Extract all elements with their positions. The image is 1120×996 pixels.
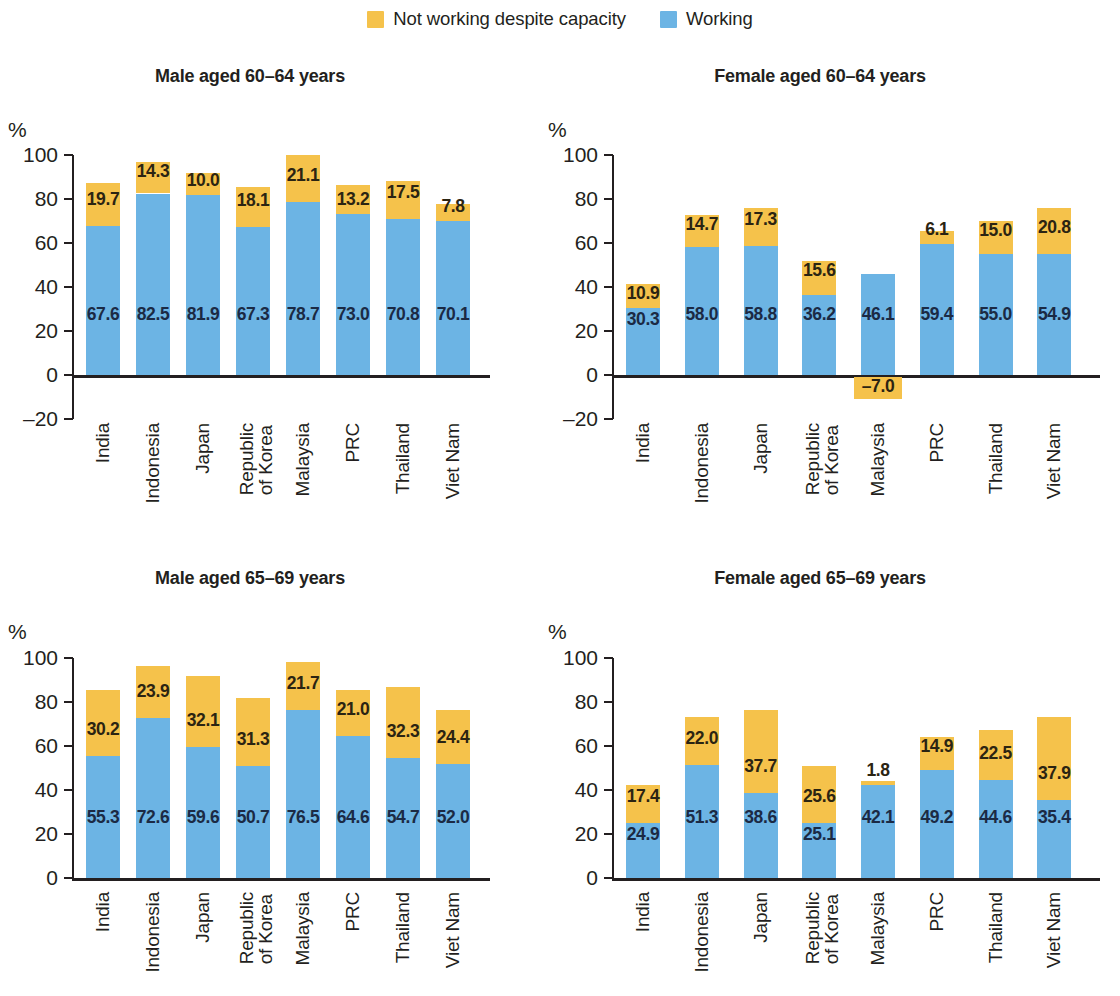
y-axis-tick-label: 80 (534, 691, 598, 712)
bar-value-label-not-working: 25.6 (803, 788, 835, 806)
bar-value-label-not-working: 22.0 (686, 730, 718, 748)
bar-segment-not-working[interactable]: 37.7 (744, 710, 778, 793)
bar-segment-not-working[interactable]: 37.9 (1037, 717, 1071, 800)
bar-segment-working[interactable]: 52.0 (436, 764, 470, 878)
bar-segment-working[interactable]: 38.6 (744, 793, 778, 878)
bar-group[interactable]: 59.632.1 (186, 0, 220, 996)
y-axis-tick (64, 701, 73, 703)
bar-value-label-not-working: 37.7 (744, 758, 776, 776)
bar-group[interactable]: 44.622.5 (979, 0, 1013, 996)
y-axis-tick-label: 60 (0, 735, 58, 756)
bar-segment-not-working[interactable]: 24.4 (436, 710, 470, 764)
y-axis-tick-label: 80 (0, 691, 58, 712)
y-axis-tick (64, 745, 73, 747)
bar-segment-not-working[interactable]: 22.0 (685, 717, 719, 765)
y-axis-tick (604, 877, 613, 879)
bar-segment-working[interactable]: 51.3 (685, 765, 719, 878)
bar-segment-working[interactable]: 64.6 (336, 736, 370, 878)
bar-segment-working[interactable]: 55.3 (86, 756, 120, 878)
bar-group[interactable]: 64.621.0 (336, 0, 370, 996)
bar-value-label-not-working: 21.0 (337, 701, 369, 719)
y-axis-tick-label: 20 (534, 823, 598, 844)
y-axis-tick (604, 701, 613, 703)
x-axis-category-label: India (93, 892, 112, 932)
y-axis-tick-label: 60 (534, 735, 598, 756)
bar-value-label-working: 25.1 (803, 826, 835, 844)
bar-group[interactable]: 42.11.8 (861, 0, 895, 996)
y-axis-tick (64, 657, 73, 659)
bar-value-label-working: 51.3 (686, 809, 718, 827)
y-axis-tick-label: 100 (0, 647, 58, 668)
bar-segment-not-working[interactable]: 32.3 (386, 687, 420, 758)
bar-value-label-working: 44.6 (979, 809, 1011, 827)
x-axis-category-label: PRC (927, 892, 946, 932)
bar-value-label-not-working: 23.9 (137, 683, 169, 701)
x-axis-line (72, 878, 490, 881)
bar-segment-not-working[interactable]: 1.8 (861, 781, 895, 785)
bar-segment-working[interactable]: 35.4 (1037, 800, 1071, 878)
bar-segment-working[interactable]: 59.6 (186, 747, 220, 878)
y-axis-line (612, 658, 614, 878)
bar-segment-not-working[interactable]: 14.9 (920, 737, 954, 770)
bar-group[interactable]: 35.437.9 (1037, 0, 1071, 996)
bar-segment-working[interactable]: 54.7 (386, 758, 420, 878)
x-axis-category-label: Republic of Korea (803, 892, 842, 964)
bar-value-label-not-working: 14.9 (921, 738, 953, 756)
bar-value-label-not-working: 30.2 (87, 721, 119, 739)
y-axis-unit-label: % (548, 620, 567, 644)
bar-value-label-working: 72.6 (137, 809, 169, 827)
bar-segment-not-working[interactable]: 23.9 (136, 666, 170, 719)
bar-group[interactable]: 49.214.9 (920, 0, 954, 996)
x-axis-category-label: India (633, 892, 652, 932)
bar-group[interactable]: 50.731.3 (236, 0, 270, 996)
bar-value-label-working: 49.2 (921, 809, 953, 827)
bar-segment-working[interactable]: 76.5 (286, 710, 320, 878)
x-axis-category-label: Indonesia (143, 892, 162, 973)
bar-value-label-working: 42.1 (862, 809, 894, 827)
y-axis-line (72, 658, 74, 878)
y-axis-tick (604, 657, 613, 659)
bar-segment-not-working[interactable]: 32.1 (186, 676, 220, 747)
bar-segment-working[interactable]: 44.6 (979, 780, 1013, 878)
bar-segment-not-working[interactable]: 30.2 (86, 690, 120, 756)
y-axis-tick-label: 100 (534, 647, 598, 668)
bar-segment-not-working[interactable]: 22.5 (979, 730, 1013, 780)
y-axis-tick-label: 40 (534, 779, 598, 800)
bar-group[interactable]: 25.125.6 (802, 0, 836, 996)
x-axis-category-label: Thailand (393, 892, 412, 963)
x-axis-category-label: Viet Nam (443, 892, 462, 968)
bar-group[interactable]: 51.322.0 (685, 0, 719, 996)
bar-segment-not-working[interactable]: 17.4 (626, 785, 660, 823)
bar-segment-working[interactable]: 24.9 (626, 823, 660, 878)
y-axis-tick (604, 789, 613, 791)
bar-group[interactable]: 52.024.4 (436, 0, 470, 996)
bar-group[interactable]: 24.917.4 (626, 0, 660, 996)
bar-value-label-not-working: 22.5 (979, 745, 1011, 763)
bar-value-label-not-working: 32.3 (387, 723, 419, 741)
bar-group[interactable]: 76.521.7 (286, 0, 320, 996)
bar-segment-working[interactable]: 72.6 (136, 718, 170, 878)
bar-segment-working[interactable]: 50.7 (236, 766, 270, 878)
bar-segment-working[interactable]: 42.1 (861, 785, 895, 878)
bar-group[interactable]: 72.623.9 (136, 0, 170, 996)
bar-segment-working[interactable]: 25.1 (802, 823, 836, 878)
bar-group[interactable]: 38.637.7 (744, 0, 778, 996)
y-axis-tick-label: 0 (0, 867, 58, 888)
x-axis-category-label: Malaysia (868, 892, 887, 965)
bar-value-label-working: 64.6 (337, 809, 369, 827)
x-axis-category-label: Viet Nam (1044, 892, 1063, 968)
bar-group[interactable]: 54.732.3 (386, 0, 420, 996)
x-axis-category-label: Malaysia (293, 892, 312, 965)
bar-group[interactable]: 55.330.2 (86, 0, 120, 996)
bar-segment-not-working[interactable]: 31.3 (236, 698, 270, 767)
bar-value-label-working: 76.5 (287, 809, 319, 827)
bar-segment-not-working[interactable]: 21.7 (286, 662, 320, 710)
bar-value-label-working: 59.6 (187, 809, 219, 827)
bar-value-label-working: 52.0 (437, 809, 469, 827)
bar-segment-not-working[interactable]: 25.6 (802, 766, 836, 822)
bar-segment-working[interactable]: 49.2 (920, 770, 954, 878)
y-axis-tick-label: 0 (534, 867, 598, 888)
bar-value-label-working: 35.4 (1038, 809, 1070, 827)
y-axis-tick-label: 40 (0, 779, 58, 800)
bar-segment-not-working[interactable]: 21.0 (336, 690, 370, 736)
